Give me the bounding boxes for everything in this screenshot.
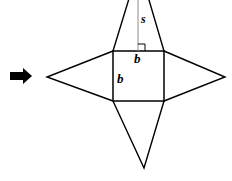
left-triangle-flap (47, 51, 113, 101)
geometry-figure: s b b (0, 0, 232, 181)
right-angle-marker (138, 44, 145, 51)
base-top-label: b (134, 51, 141, 66)
right-pointing-arrow-icon (10, 68, 32, 84)
base-left-label: b (117, 71, 124, 86)
figure-canvas: s b b (0, 0, 232, 181)
right-triangle-flap (164, 51, 225, 101)
slant-height-label: s (140, 12, 146, 26)
bottom-triangle-flap (113, 101, 164, 168)
